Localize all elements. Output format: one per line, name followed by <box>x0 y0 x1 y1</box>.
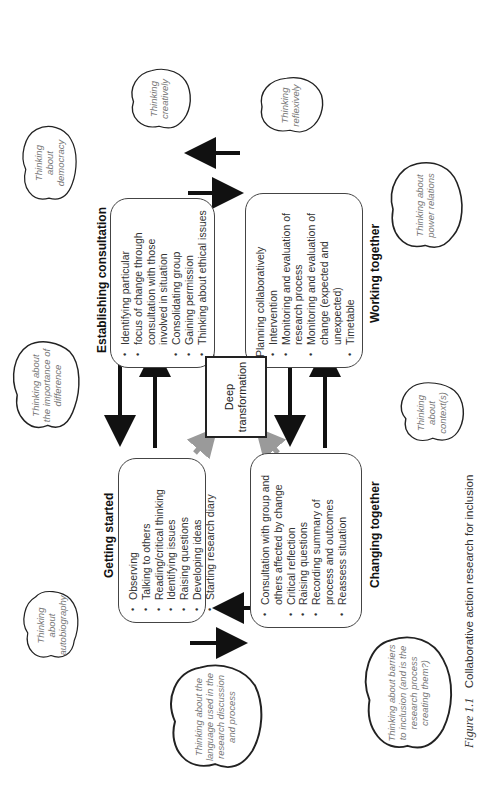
list-item: Recording summary of process and outcome… <box>310 464 336 605</box>
list-item: Raising questions <box>297 464 310 605</box>
list-item: Reading/critical thinking <box>153 469 166 600</box>
list-item: Identifying issues <box>165 469 178 600</box>
cloud-difference: Thinking about the importance of differe… <box>10 338 82 433</box>
list-item: Talking to others <box>140 469 153 600</box>
stage-box-establishing-consultation: Identifying particular focus of change t… <box>110 198 215 368</box>
list-item: Monitoring and evaluation of research pr… <box>280 204 306 345</box>
list-item: Critical reflection <box>285 464 298 605</box>
figure-canvas: Getting started Observing Talking to oth… <box>0 0 485 793</box>
list-item: Observing <box>127 469 140 600</box>
list-item: Gaining permission <box>183 209 196 345</box>
list-item: Raising questions <box>178 469 191 600</box>
list-item: Consultation with group and others affec… <box>259 464 285 605</box>
stage-box-changing-together: Consultation with group and others affec… <box>250 453 362 628</box>
cloud-creatively: Thinking creatively <box>125 65 193 133</box>
cloud-contexts: Thinking about context(s) <box>395 378 467 448</box>
working-lead: Planning collaboratively <box>254 204 267 357</box>
list-item: Thinking about ethical issues <box>196 209 209 345</box>
stage-title-getting-started: Getting started <box>102 493 116 578</box>
cloud-democracy: Thinking about democracy <box>18 123 80 203</box>
figure-label: Figure 1.1 <box>462 698 476 748</box>
list-item: Reassess situation <box>336 464 349 605</box>
list-item: Timetable <box>344 204 357 345</box>
list-item: Monitoring and evaluation of change (exp… <box>305 204 343 345</box>
deep-transformation-box: Deep transformation <box>205 356 267 438</box>
cloud-language: Thinking about the language used in the … <box>165 661 265 773</box>
stage-box-working-together: Planning collaboratively Intervention Mo… <box>245 193 363 368</box>
cloud-reflexively: Thinking reflexively <box>255 73 325 138</box>
cloud-power: Thinking about power relations <box>385 158 465 253</box>
list-item: focus of change through consultation wit… <box>132 209 170 345</box>
stage-box-getting-started: Observing Talking to others Reading/crit… <box>118 458 206 623</box>
list-item: Consolidating group <box>170 209 183 345</box>
cloud-barriers: Thinking about barriers to inclusion (an… <box>360 633 455 753</box>
stage-title-working-together: Working together <box>368 224 382 323</box>
figure-caption: Figure 1.1 Collaborative action research… <box>462 475 477 748</box>
list-item: Developing ideas <box>191 469 204 600</box>
stage-title-changing-together: Changing together <box>368 481 382 588</box>
grey-arrow-getting <box>195 438 208 453</box>
cloud-autobiography: Thinking about autobiography <box>20 588 82 663</box>
list-item: Intervention <box>267 204 280 345</box>
list-item: Starting research diary <box>204 469 217 600</box>
figure-caption-text: Collaborative action research for inclus… <box>463 475 475 689</box>
stage-title-establishing-consultation: Establishing consultation <box>95 207 109 353</box>
grey-arrow-changing <box>265 438 278 453</box>
list-item: Identifying particular <box>119 209 132 345</box>
